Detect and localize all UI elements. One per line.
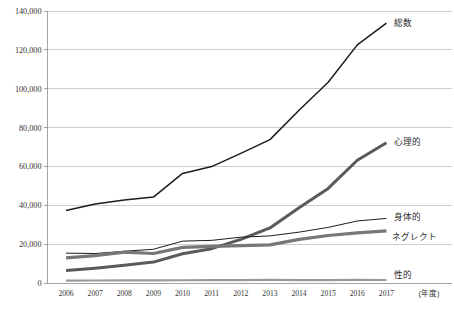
series-group — [66, 23, 386, 281]
y-axis-label-20000: 20,000 — [19, 240, 42, 249]
x-axis-label-2010: 2010 — [175, 289, 190, 298]
series-line-性的 — [66, 280, 386, 281]
y-axis-label-80000: 80,000 — [19, 124, 42, 133]
y-axis-label-40000: 40,000 — [19, 201, 42, 210]
labels-group: 020,00040,00060,00080,000100,000120,0001… — [15, 7, 440, 298]
gridlines-group — [48, 11, 453, 244]
y-axis-label-120000: 120,000 — [15, 46, 42, 55]
y-axis-label-140000: 140,000 — [15, 7, 42, 16]
series-label-性的: 性的 — [394, 269, 412, 280]
chart-container: 020,00040,00060,00080,000100,000120,0001… — [0, 0, 454, 319]
axes-group — [44, 11, 452, 283]
series-label-総数: 総数 — [394, 17, 412, 28]
series-line-総数 — [66, 23, 386, 210]
x-axis-label-2012: 2012 — [233, 289, 248, 298]
x-axis-unit-note: (年度) — [418, 288, 440, 298]
y-axis-label-0: 0 — [37, 279, 41, 288]
x-axis-label-2007: 2007 — [88, 289, 103, 298]
series-label-身体的: 身体的 — [394, 211, 421, 222]
x-axis-label-2009: 2009 — [146, 289, 161, 298]
line-chart: 020,00040,00060,00080,000100,000120,0001… — [0, 0, 454, 319]
series-label-心理的: 心理的 — [394, 136, 421, 147]
series-label-ネグレクト: ネグレクト — [392, 231, 437, 242]
x-axis-label-2017: 2017 — [379, 289, 394, 298]
series-line-心理的 — [66, 143, 386, 271]
x-axis-label-2015: 2015 — [321, 289, 336, 298]
x-axis-label-2016: 2016 — [350, 289, 365, 298]
x-axis-label-2008: 2008 — [117, 289, 132, 298]
x-axis-label-2006: 2006 — [58, 289, 73, 298]
y-axis-label-100000: 100,000 — [15, 85, 42, 94]
x-axis-label-2013: 2013 — [262, 289, 277, 298]
x-axis-label-2014: 2014 — [291, 289, 306, 298]
x-axis-label-2011: 2011 — [204, 289, 219, 298]
y-axis-label-60000: 60,000 — [19, 162, 42, 171]
